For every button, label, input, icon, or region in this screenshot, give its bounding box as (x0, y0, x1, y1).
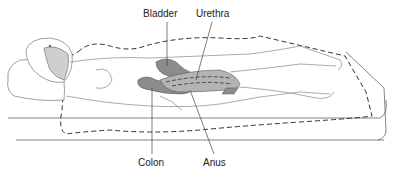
patient-illustration (0, 0, 397, 176)
label-anus: Anus (203, 158, 226, 168)
diagram-canvas: Bladder Urethra Colon Anus (0, 0, 397, 176)
label-bladder: Bladder (143, 9, 177, 19)
label-colon: Colon (138, 158, 164, 168)
organs (138, 59, 240, 94)
label-urethra: Urethra (196, 9, 229, 19)
